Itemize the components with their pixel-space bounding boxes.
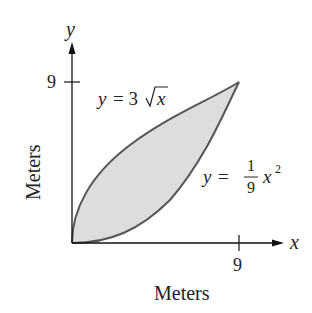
chart: 9 9 y x Meters Meters y = 3 x y = 1 9 x …	[0, 0, 312, 313]
svg-text:y: y	[201, 166, 212, 187]
svg-text:y: y	[96, 88, 107, 109]
x-axis-arrow-icon	[272, 240, 284, 247]
svg-text:x: x	[262, 166, 272, 187]
svg-text:1: 1	[247, 157, 255, 174]
y-axis-name: y	[64, 18, 75, 41]
y-axis-arrow-icon	[69, 42, 76, 54]
label-sqrt: y = 3 x	[96, 87, 168, 109]
svg-text:x: x	[156, 88, 166, 109]
svg-text:9: 9	[247, 179, 255, 196]
y-axis-title: Meters	[22, 144, 44, 200]
x-tick-label: 9	[233, 255, 242, 275]
svg-text:= 3: = 3	[113, 88, 138, 109]
x-axis-name: x	[289, 231, 299, 253]
y-tick-label: 9	[47, 72, 56, 92]
label-parabola: y = 1 9 x 2	[201, 157, 281, 196]
x-axis-title: Meters	[154, 282, 210, 304]
svg-text:2: 2	[275, 162, 281, 176]
svg-text:=: =	[218, 166, 229, 187]
